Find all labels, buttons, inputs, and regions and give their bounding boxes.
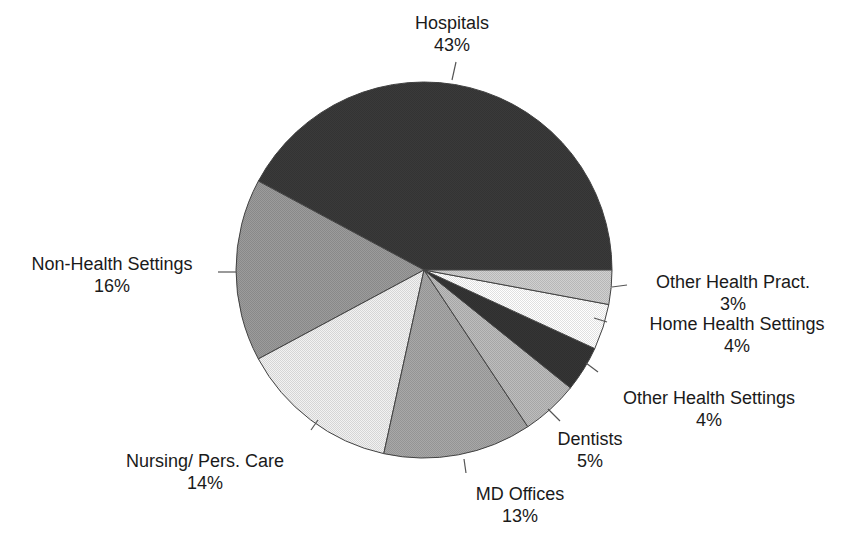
label-nursing-pers-care: Nursing/ Pers. Care14%: [126, 450, 284, 494]
label-non-health-settings: Non-Health Settings16%: [31, 253, 192, 297]
leader-line: [548, 409, 560, 421]
leader-line: [586, 363, 598, 372]
label-home-health-settings: Home Health Settings4%: [649, 313, 824, 357]
label-dentists: Dentists5%: [557, 428, 622, 472]
label-md-offices: MD Offices13%: [476, 483, 565, 527]
label-other-health-settings: Other Health Settings4%: [623, 387, 795, 431]
leader-line: [452, 62, 456, 80]
label-other-health-pract: Other Health Pract.3%: [656, 271, 810, 315]
label-hospitals: Hospitals43%: [415, 12, 489, 56]
leader-line: [464, 459, 466, 473]
pie-slices: [236, 82, 612, 458]
leader-line: [612, 285, 627, 287]
